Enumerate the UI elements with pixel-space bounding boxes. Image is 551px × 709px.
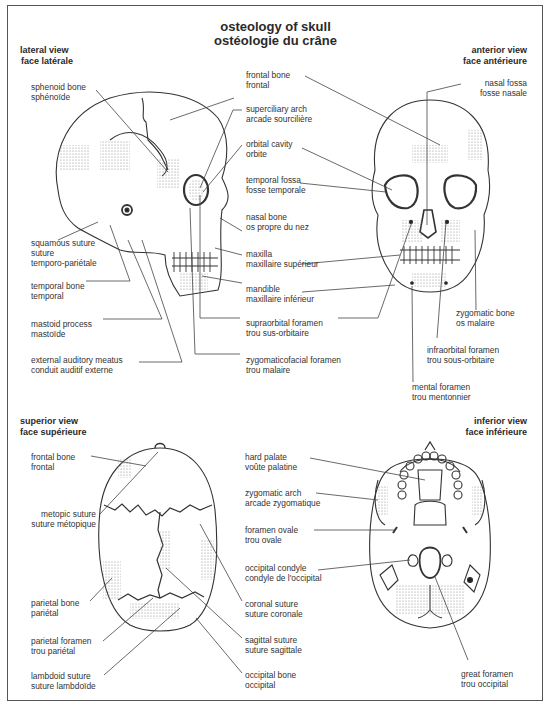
label-fr: fosse nasale (480, 88, 527, 98)
label-en: external auditory meatus (31, 355, 123, 365)
label-frontal-bone: frontal bone frontal (246, 70, 290, 90)
label-infraorbital-foramen: infraorbital foramen trou sous-orbitaire (427, 345, 499, 365)
label-en: foramen ovale (245, 525, 298, 535)
label-en: lambdoid suture (31, 671, 96, 681)
label-en: orbital cavity (246, 139, 293, 149)
label-mastoid-process: mastoid process mastoïde (31, 319, 92, 339)
label-fr: voûte palatine (245, 462, 297, 472)
label-nasal-bone: nasal bone os propre du nez (246, 212, 309, 232)
label-fr: trou occipital (461, 679, 513, 689)
label-fr: condyle de l'occipital (245, 573, 322, 583)
label-en: mandible (246, 284, 314, 294)
label-fr: suture coronale (245, 609, 303, 619)
label-fr: trou pariétal (31, 646, 92, 656)
label-en: coronal suture (245, 599, 303, 609)
label-en: hard palate (245, 452, 297, 462)
label-nasal-fossa: nasal fossa fosse nasale (480, 78, 527, 98)
label-fr-2: temporo-pariétale (31, 258, 97, 268)
label-en: zygomatic arch (245, 488, 320, 498)
label-fr: trou malaire (246, 365, 341, 375)
label-en: maxilla (246, 249, 319, 259)
label-fr: suture lambdoïde (31, 681, 96, 691)
label-metopic-suture: metopic suture suture métopique (31, 509, 96, 529)
label-fr: mastoïde (31, 329, 92, 339)
label-fr: frontal (246, 80, 290, 90)
label-parietal-foramen: parietal foramen trou pariétal (31, 636, 92, 656)
label-en: temporal fossa (246, 175, 306, 185)
label-great-foramen: great foramen trou occipital (461, 669, 513, 689)
label-en: temporal bone (31, 281, 85, 291)
label-fr: trou ovale (245, 535, 298, 545)
label-en: parietal bone (31, 598, 79, 608)
label-sphenoid-bone: sphenoid bone sphénoïde (31, 82, 86, 102)
label-occipital-condyle: occipital condyle condyle de l'occipital (245, 563, 322, 583)
label-parietal-bone: parietal bone pariétal (31, 598, 79, 618)
label-fr: arcade sourcilière (246, 114, 312, 124)
label-fr: orbite (246, 149, 293, 159)
label-squamous-suture: squamous suture suture temporo-pariétale (31, 238, 97, 269)
label-fr: maxillaire inférieur (246, 294, 314, 304)
label-fr: os propre du nez (246, 222, 309, 232)
label-zygomatic-arch: zygomatic arch arcade zygomatique (245, 488, 320, 508)
label-en: zygomaticofacial foramen (246, 355, 341, 365)
label-en: mental foramen (412, 382, 471, 392)
label-zygomatic-bone: zygomatic bone os malaire (456, 308, 515, 328)
superior-skull-drawing (99, 444, 217, 632)
label-en: superciliary arch (246, 104, 312, 114)
label-fr: fosse temporale (246, 185, 306, 195)
label-fr: suture (31, 248, 97, 258)
label-en: infraorbital foramen (427, 345, 499, 355)
label-hard-palate: hard palate voûte palatine (245, 452, 297, 472)
label-superciliary-arch: superciliary arch arcade sourcilière (246, 104, 312, 124)
anterior-skull-drawing (372, 100, 489, 292)
label-coronal-suture: coronal suture suture coronale (245, 599, 303, 619)
label-en: squamous suture (31, 238, 97, 248)
label-fr: suture sagittale (245, 645, 302, 655)
label-fr: conduit auditif externe (31, 365, 123, 375)
label-fr: sphénoïde (31, 92, 86, 102)
label-external-auditory-meatus: external auditory meatus conduit auditif… (31, 355, 123, 375)
label-fr: temporal (31, 291, 85, 301)
label-en: great foramen (461, 669, 513, 679)
label-en: frontal bone (246, 70, 290, 80)
label-fr: trou sus-orbitaire (246, 328, 323, 338)
label-lambdoid-suture: lambdoid suture suture lambdoïde (31, 671, 96, 691)
label-supraorbital-foramen: supraorbital foramen trou sus-orbitaire (246, 318, 323, 338)
label-mandible: mandible maxillaire inférieur (246, 284, 314, 304)
label-fr: frontal (31, 462, 75, 472)
label-fr: maxillaire supérieur (246, 259, 319, 269)
label-en: parietal foramen (31, 636, 92, 646)
label-en: frontal bone (31, 452, 75, 462)
label-zygomaticofacial-foramen: zygomaticofacial foramen trou malaire (246, 355, 341, 375)
label-fr: pariétal (31, 608, 79, 618)
label-en: nasal fossa (480, 78, 527, 88)
label-en: nasal bone (246, 212, 309, 222)
label-fr: trou mentonnier (412, 392, 471, 402)
label-en: sagittal suture (245, 635, 302, 645)
label-fr: arcade zygomatique (245, 498, 320, 508)
label-foramen-ovale: foramen ovale trou ovale (245, 525, 298, 545)
label-en: occipital condyle (245, 563, 322, 573)
label-superior-frontal-bone: frontal bone frontal (31, 452, 75, 472)
label-en: metopic suture (31, 509, 96, 519)
label-en: sphenoid bone (31, 82, 86, 92)
label-temporal-bone: temporal bone temporal (31, 281, 85, 301)
label-sagittal-suture: sagittal suture suture sagittale (245, 635, 302, 655)
label-occipital-bone: occipital bone occipital (245, 670, 296, 690)
label-fr: occipital (245, 680, 296, 690)
label-en: mastoid process (31, 319, 92, 329)
label-maxilla: maxilla maxillaire supérieur (246, 249, 319, 269)
label-en: zygomatic bone (456, 308, 515, 318)
label-en: supraorbital foramen (246, 318, 323, 328)
label-fr: trou sous-orbitaire (427, 355, 499, 365)
label-fr: os malaire (456, 318, 515, 328)
label-fr: suture métopique (31, 519, 96, 529)
label-mental-foramen: mental foramen trou mentonnier (412, 382, 471, 402)
label-en: occipital bone (245, 670, 296, 680)
label-temporal-fossa: temporal fossa fosse temporale (246, 175, 306, 195)
inferior-skull-drawing (370, 442, 491, 628)
label-orbital-cavity: orbital cavity orbite (246, 139, 293, 159)
